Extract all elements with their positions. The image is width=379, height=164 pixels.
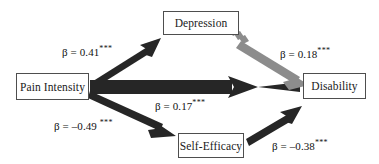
edge-coefficient: β = 0.18 bbox=[280, 48, 317, 60]
node-disability[interactable]: Disability bbox=[303, 73, 366, 99]
edge-label-pain-intensity-to-depression: β = 0.41*** bbox=[62, 44, 112, 58]
edge-label-self-efficacy-to-disability: β = –0.38*** bbox=[272, 138, 328, 152]
node-self-efficacy-label: Self-Efficacy bbox=[180, 140, 242, 152]
edge-significance: *** bbox=[192, 98, 205, 107]
edge-label-pain-intensity-to-disability: β = 0.17*** bbox=[155, 98, 205, 112]
edge-label-pain-intensity-to-self-efficacy: β = –0.49 *** bbox=[54, 118, 113, 132]
node-disability-label: Disability bbox=[311, 80, 357, 92]
edge-coefficient: β = 0.41 bbox=[62, 46, 99, 58]
path-diagram: Depression Pain Intensity Disability Sel… bbox=[0, 0, 379, 164]
edge-coefficient: β = –0.38 bbox=[272, 140, 315, 152]
edge-significance: *** bbox=[99, 44, 112, 53]
node-depression[interactable]: Depression bbox=[163, 11, 239, 35]
edge-coefficient: β = –0.49 bbox=[54, 120, 97, 132]
arrow-pain-intensity-to-disability bbox=[90, 76, 300, 98]
node-pain-intensity[interactable]: Pain Intensity bbox=[16, 73, 89, 100]
edge-coefficient: β = 0.17 bbox=[155, 100, 192, 112]
node-self-efficacy[interactable]: Self-Efficacy bbox=[178, 133, 244, 158]
edge-significance: *** bbox=[315, 138, 328, 147]
edge-label-depression-to-disability: β = 0.18*** bbox=[280, 46, 330, 60]
edge-significance: *** bbox=[317, 46, 330, 55]
node-pain-intensity-label: Pain Intensity bbox=[20, 81, 85, 93]
edge-significance: *** bbox=[100, 118, 113, 127]
node-depression-label: Depression bbox=[175, 17, 228, 29]
